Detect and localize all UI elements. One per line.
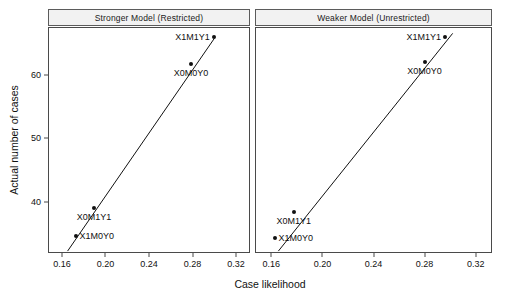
data-point [443, 35, 447, 39]
scatter-plot-figure: Actual number of casesCase likelihood405… [0, 0, 510, 301]
y-axis-title: Actual number of cases [8, 85, 20, 195]
x-tick-mark [373, 253, 374, 257]
x-tick-mark [149, 253, 150, 257]
data-point-label: X0M0Y0 [407, 67, 442, 76]
data-point-label: X0M1Y1 [276, 217, 311, 226]
y-tick-label: 50 [31, 133, 41, 143]
x-tick-mark [61, 253, 62, 257]
data-point-label: X1M0Y0 [80, 231, 115, 240]
data-point [292, 210, 296, 214]
data-point [189, 62, 193, 66]
x-tick-label: 0.32 [467, 259, 485, 269]
data-point-label: X0M1Y1 [77, 213, 112, 222]
x-tick-label: 0.24 [140, 259, 158, 269]
x-tick-label: 0.28 [416, 259, 434, 269]
x-axis-title: Case likelihood [234, 278, 305, 290]
data-point-label: X1M0Y0 [279, 233, 314, 242]
y-tick-label: 40 [31, 197, 41, 207]
data-point-label: X0M0Y0 [174, 69, 209, 78]
x-tick-label: 0.32 [227, 259, 245, 269]
x-tick-mark [236, 253, 237, 257]
data-point [212, 35, 216, 39]
x-tick-mark [271, 253, 272, 257]
x-tick-mark [424, 253, 425, 257]
x-tick-label: 0.28 [184, 259, 202, 269]
y-tick-label: 60 [31, 70, 41, 80]
panel-strip-1: Weaker Model (Unrestricted) [255, 9, 492, 26]
x-tick-mark [475, 253, 476, 257]
x-tick-mark [105, 253, 106, 257]
data-point-label: X1M1Y1 [406, 32, 441, 41]
x-tick-label: 0.16 [263, 259, 281, 269]
x-tick-label: 0.24 [365, 259, 383, 269]
data-point [74, 234, 78, 238]
x-tick-label: 0.20 [97, 259, 115, 269]
data-point [423, 60, 427, 64]
x-tick-mark [322, 253, 323, 257]
panel-strip-0: Stronger Model (Restricted) [48, 9, 250, 26]
data-point [273, 236, 277, 240]
panel-strip-label: Stronger Model (Restricted) [95, 13, 203, 23]
x-tick-mark [192, 253, 193, 257]
data-point [92, 206, 96, 210]
panel-strip-label: Weaker Model (Unrestricted) [317, 13, 430, 23]
x-tick-label: 0.16 [53, 259, 71, 269]
data-point-label: X1M1Y1 [175, 32, 210, 41]
x-tick-label: 0.20 [314, 259, 332, 269]
